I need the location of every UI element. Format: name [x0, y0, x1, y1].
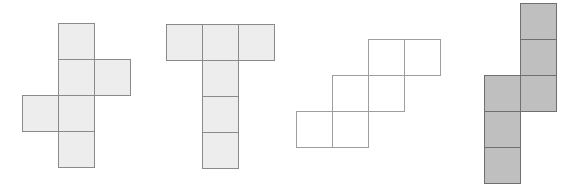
- staircase-hexomino-cell: [332, 111, 369, 148]
- zigzag-cross-hexomino-cell: [94, 59, 131, 96]
- t-hexomino-cell: [202, 96, 239, 133]
- t-hexomino-cell: [166, 24, 203, 61]
- hexomino-figure: [0, 0, 574, 190]
- t-hexomino-cell: [202, 60, 239, 97]
- s-hexomino-cell: [520, 75, 557, 112]
- zigzag-cross-hexomino-cell: [58, 131, 95, 168]
- zigzag-cross-hexomino-cell: [58, 95, 95, 132]
- t-hexomino-cell: [202, 132, 239, 169]
- t-hexomino-cell: [202, 24, 239, 61]
- staircase-hexomino-cell: [368, 75, 405, 112]
- zigzag-cross-hexomino-cell: [58, 23, 95, 60]
- s-hexomino-cell: [520, 3, 557, 40]
- zigzag-cross-hexomino-cell: [58, 59, 95, 96]
- staircase-hexomino-cell: [332, 75, 369, 112]
- s-hexomino-cell: [484, 147, 521, 184]
- s-hexomino-cell: [484, 111, 521, 148]
- t-hexomino-cell: [238, 24, 275, 61]
- s-hexomino-cell: [484, 75, 521, 112]
- staircase-hexomino-cell: [404, 39, 441, 76]
- staircase-hexomino-cell: [368, 39, 405, 76]
- staircase-hexomino-cell: [296, 111, 333, 148]
- zigzag-cross-hexomino-cell: [22, 95, 59, 132]
- s-hexomino-cell: [520, 39, 557, 76]
